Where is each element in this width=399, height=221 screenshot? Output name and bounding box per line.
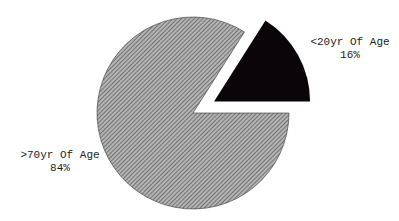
label-under-20-pct: 16% [300, 49, 399, 62]
label-under-20-name: <20yr Of Age [300, 36, 399, 49]
label-over-70-name: >70yr Of Age [10, 149, 110, 162]
pie-chart [0, 0, 399, 221]
label-over-70: >70yr Of Age 84% [10, 149, 110, 175]
label-under-20: <20yr Of Age 16% [300, 36, 399, 62]
label-over-70-pct: 84% [10, 162, 110, 175]
